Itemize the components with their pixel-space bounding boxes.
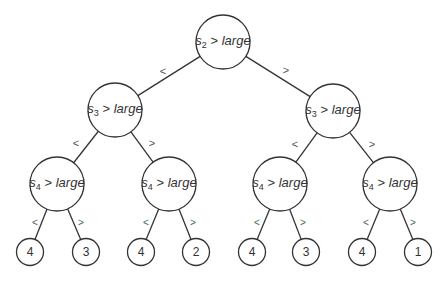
decision-node-label: s4 > large — [29, 176, 84, 192]
edge-label-less: < — [254, 218, 260, 228]
edge-label-greater: > — [410, 218, 416, 228]
decision-node-label: s3 > large — [87, 102, 142, 118]
tree-edge — [246, 56, 310, 96]
decision-node-label: s4 > large — [252, 176, 307, 192]
tree-edge — [138, 56, 200, 95]
edge-label-less: < — [160, 66, 166, 77]
edge-label-greater: > — [283, 65, 289, 76]
edge-label-greater: > — [149, 138, 155, 149]
edge-label-greater: > — [190, 218, 196, 228]
leaf-node-value: 3 — [83, 246, 90, 258]
leaf-node-value: 4 — [249, 246, 256, 258]
edge-label-less: < — [363, 218, 369, 228]
leaf-node-value: 3 — [303, 246, 310, 258]
edge-label-greater: > — [300, 218, 306, 228]
decision-node-label: s2 > large — [195, 34, 250, 50]
edge-label-less: < — [143, 218, 149, 228]
tree-edge — [296, 133, 317, 162]
leaf-node-value: 4 — [27, 246, 34, 258]
decision-node-label: s4 > large — [362, 176, 417, 192]
leaf-node-value: 4 — [138, 246, 145, 258]
decision-node-label: s4 > large — [141, 176, 196, 192]
edge-label-less: < — [73, 138, 79, 149]
leaf-node-value: 4 — [359, 246, 366, 258]
edge-label-less: < — [292, 139, 298, 150]
leaf-node-value: 1 — [415, 246, 422, 258]
edge-label-less: < — [32, 218, 38, 228]
edge-label-greater: > — [78, 218, 84, 228]
edge-label-greater: > — [369, 139, 375, 150]
leaf-node-value: 2 — [193, 246, 200, 258]
decision-node-label: s3 > large — [305, 103, 360, 119]
